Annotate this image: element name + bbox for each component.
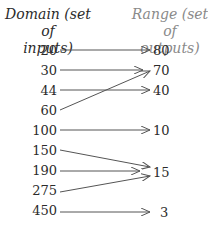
range-value: 10: [153, 123, 170, 138]
mapping-arrows: [60, 50, 150, 212]
range-value: 15: [153, 165, 170, 180]
range-value: 3: [160, 205, 168, 220]
domain-value: 275: [32, 183, 57, 198]
range-value: 70: [153, 63, 170, 78]
domain-value: 450: [32, 203, 57, 218]
domain-value: 30: [40, 63, 57, 78]
domain-value: 20: [40, 43, 57, 58]
domain-values: 20 30 44 60 100 150 190 275 450: [32, 43, 57, 218]
arrow-icon: [60, 150, 150, 167]
arrow-icon: [60, 176, 150, 192]
domain-value: 60: [40, 103, 57, 118]
domain-value: 150: [32, 143, 57, 158]
domain-value: 190: [32, 163, 57, 178]
domain-value: 44: [40, 83, 57, 98]
range-value: 80: [153, 43, 170, 58]
mapping-diagram: 20 30 44 60 100 150 190 275 450 80 70 40…: [0, 0, 208, 231]
range-values: 80 70 40 10 15 3: [153, 43, 170, 220]
range-value: 40: [153, 83, 170, 98]
domain-value: 100: [32, 123, 57, 138]
